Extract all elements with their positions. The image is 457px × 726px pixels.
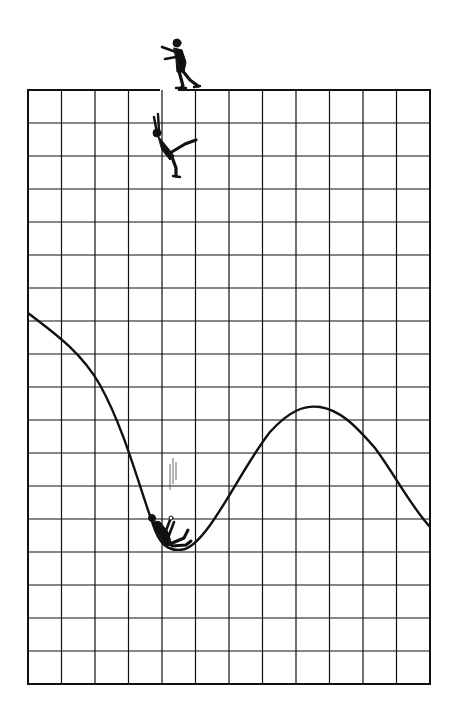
grid [28,90,430,684]
cartoon-illustration [0,0,457,726]
motion-lines [170,458,176,490]
walking-man-figure [162,39,200,88]
